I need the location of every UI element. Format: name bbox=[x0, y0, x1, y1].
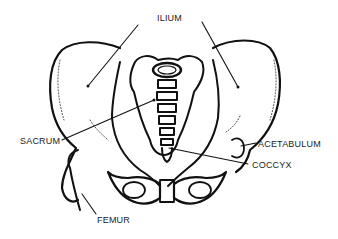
sacral-segments bbox=[157, 80, 177, 145]
left-obturator-foramen bbox=[123, 182, 145, 198]
label-sacrum: SACRUM bbox=[20, 136, 60, 146]
label-acetabulum: ACETABULUM bbox=[258, 139, 321, 149]
label-ilium: ILIUM bbox=[157, 13, 182, 23]
sacral-promontory bbox=[153, 63, 181, 77]
label-coccyx: COCCYX bbox=[252, 160, 292, 170]
pelvis-illustration bbox=[0, 0, 338, 239]
label-femur: FEMUR bbox=[97, 215, 130, 225]
right-acetabulum bbox=[232, 138, 244, 157]
right-obturator-foramen bbox=[189, 182, 211, 198]
